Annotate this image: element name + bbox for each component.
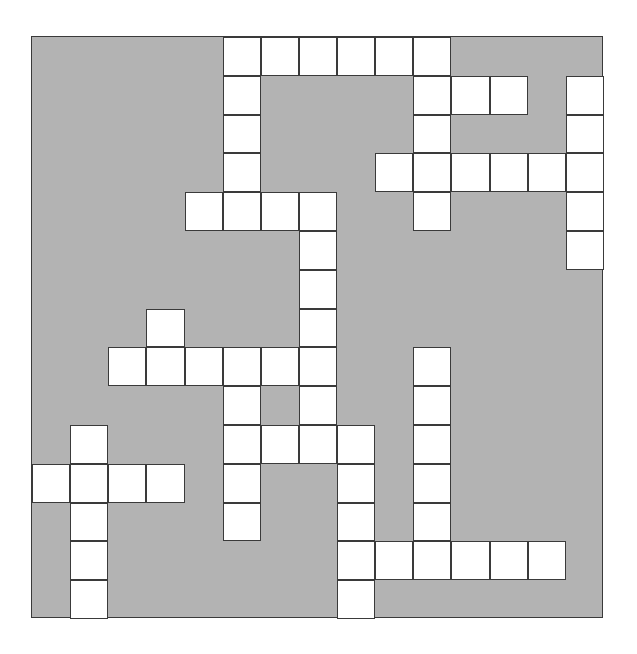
crossword-open-cell[interactable]: [451, 76, 489, 115]
crossword-open-cell[interactable]: [490, 541, 528, 580]
crossword-block-cell: [528, 115, 566, 154]
crossword-open-cell[interactable]: [375, 37, 413, 76]
crossword-open-cell[interactable]: [451, 153, 489, 192]
crossword-open-cell[interactable]: [108, 347, 146, 386]
crossword-open-cell[interactable]: [337, 541, 375, 580]
crossword-block-cell: [337, 153, 375, 192]
crossword-block-cell: [337, 76, 375, 115]
crossword-block-cell: [32, 309, 70, 348]
crossword-open-cell[interactable]: [299, 37, 337, 76]
crossword-open-cell[interactable]: [261, 37, 299, 76]
crossword-block-cell: [185, 153, 223, 192]
crossword-open-cell[interactable]: [185, 192, 223, 231]
crossword-block-cell: [566, 503, 604, 542]
crossword-open-cell[interactable]: [413, 541, 451, 580]
crossword-open-cell[interactable]: [413, 425, 451, 464]
crossword-open-cell[interactable]: [223, 464, 261, 503]
crossword-block-cell: [375, 115, 413, 154]
crossword-open-cell[interactable]: [299, 270, 337, 309]
crossword-open-cell[interactable]: [146, 464, 184, 503]
crossword-open-cell[interactable]: [299, 386, 337, 425]
crossword-open-cell[interactable]: [223, 37, 261, 76]
crossword-open-cell[interactable]: [70, 580, 108, 619]
crossword-open-cell[interactable]: [413, 386, 451, 425]
crossword-block-cell: [490, 115, 528, 154]
crossword-block-cell: [375, 192, 413, 231]
crossword-block-cell: [528, 270, 566, 309]
crossword-grid[interactable]: [31, 36, 603, 618]
crossword-block-cell: [528, 309, 566, 348]
crossword-block-cell: [261, 153, 299, 192]
crossword-open-cell[interactable]: [413, 115, 451, 154]
crossword-block-cell: [451, 503, 489, 542]
crossword-open-cell[interactable]: [413, 464, 451, 503]
crossword-open-cell[interactable]: [337, 37, 375, 76]
crossword-open-cell[interactable]: [261, 425, 299, 464]
crossword-open-cell[interactable]: [451, 541, 489, 580]
crossword-open-cell[interactable]: [223, 192, 261, 231]
crossword-open-cell[interactable]: [108, 464, 146, 503]
crossword-block-cell: [566, 37, 604, 76]
crossword-open-cell[interactable]: [566, 76, 604, 115]
crossword-open-cell[interactable]: [223, 425, 261, 464]
crossword-open-cell[interactable]: [299, 231, 337, 270]
crossword-open-cell[interactable]: [185, 347, 223, 386]
crossword-open-cell[interactable]: [337, 580, 375, 619]
crossword-open-cell[interactable]: [299, 309, 337, 348]
crossword-block-cell: [490, 503, 528, 542]
crossword-open-cell[interactable]: [223, 503, 261, 542]
crossword-open-cell[interactable]: [566, 192, 604, 231]
crossword-open-cell[interactable]: [413, 76, 451, 115]
crossword-block-cell: [451, 347, 489, 386]
crossword-open-cell[interactable]: [299, 347, 337, 386]
crossword-open-cell[interactable]: [413, 37, 451, 76]
crossword-open-cell[interactable]: [375, 153, 413, 192]
crossword-open-cell[interactable]: [146, 309, 184, 348]
crossword-open-cell[interactable]: [261, 347, 299, 386]
crossword-open-cell[interactable]: [413, 347, 451, 386]
crossword-open-cell[interactable]: [566, 231, 604, 270]
crossword-open-cell[interactable]: [223, 347, 261, 386]
crossword-open-cell[interactable]: [413, 153, 451, 192]
crossword-open-cell[interactable]: [70, 425, 108, 464]
crossword-open-cell[interactable]: [528, 153, 566, 192]
crossword-block-cell: [32, 192, 70, 231]
crossword-open-cell[interactable]: [223, 153, 261, 192]
crossword-block-cell: [185, 76, 223, 115]
crossword-open-cell[interactable]: [70, 503, 108, 542]
crossword-open-cell[interactable]: [70, 541, 108, 580]
crossword-block-cell: [32, 76, 70, 115]
crossword-open-cell[interactable]: [566, 153, 604, 192]
crossword-block-cell: [566, 580, 604, 619]
crossword-open-cell[interactable]: [337, 425, 375, 464]
crossword-block-cell: [299, 115, 337, 154]
crossword-open-cell[interactable]: [261, 192, 299, 231]
crossword-open-cell[interactable]: [490, 153, 528, 192]
crossword-open-cell[interactable]: [413, 503, 451, 542]
crossword-open-cell[interactable]: [566, 115, 604, 154]
crossword-block-cell: [528, 580, 566, 619]
crossword-open-cell[interactable]: [337, 503, 375, 542]
crossword-block-cell: [566, 425, 604, 464]
crossword-block-cell: [70, 37, 108, 76]
crossword-open-cell[interactable]: [223, 76, 261, 115]
crossword-open-cell[interactable]: [413, 192, 451, 231]
crossword-open-cell[interactable]: [299, 192, 337, 231]
crossword-open-cell[interactable]: [223, 115, 261, 154]
crossword-open-cell[interactable]: [337, 464, 375, 503]
crossword-block-cell: [566, 541, 604, 580]
crossword-open-cell[interactable]: [223, 386, 261, 425]
crossword-open-cell[interactable]: [32, 464, 70, 503]
crossword-open-cell[interactable]: [528, 541, 566, 580]
crossword-block-cell: [375, 309, 413, 348]
crossword-block-cell: [261, 231, 299, 270]
crossword-open-cell[interactable]: [375, 541, 413, 580]
crossword-block-cell: [528, 347, 566, 386]
crossword-open-cell[interactable]: [70, 464, 108, 503]
crossword-open-cell[interactable]: [299, 425, 337, 464]
crossword-block-cell: [451, 192, 489, 231]
crossword-block-cell: [337, 231, 375, 270]
crossword-open-cell[interactable]: [490, 76, 528, 115]
crossword-block-cell: [108, 153, 146, 192]
crossword-open-cell[interactable]: [146, 347, 184, 386]
